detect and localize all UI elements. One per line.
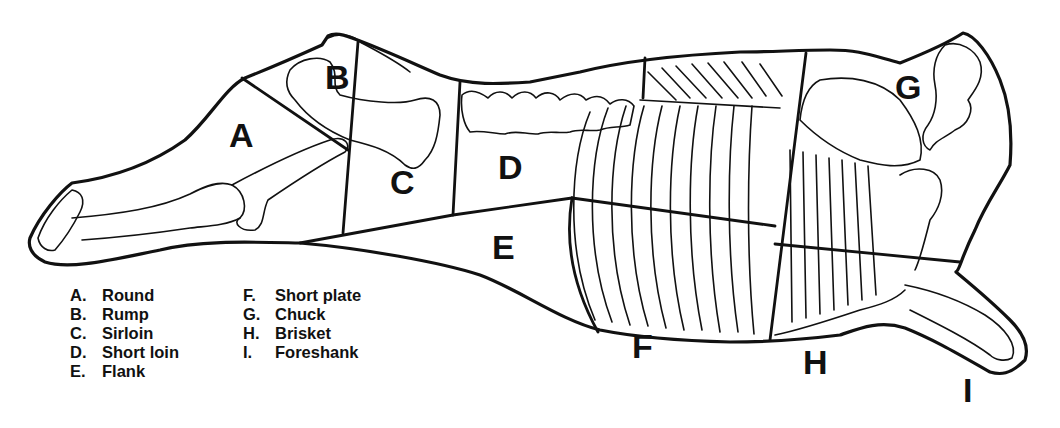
humerus [900, 169, 942, 270]
legend-item-sirloin: C.Sirloin [70, 324, 179, 343]
region-label-short-loin: D [498, 150, 523, 184]
region-label-foreshank: I [963, 373, 972, 407]
legend-item-rump: B.Rump [70, 305, 179, 324]
cut-sirloin-shortloin [453, 82, 460, 215]
hind-hoof [38, 190, 83, 251]
legend-left-column: A.Round B.Rump C.Sirloin D.Short loin E.… [70, 286, 179, 381]
cut-plate-top [572, 198, 775, 226]
legend-item-short-plate: F.Short plate [243, 286, 361, 305]
region-label-short-plate: F [632, 329, 653, 363]
cut-brisket-top [775, 244, 960, 262]
region-label-round: A [229, 118, 254, 152]
cut-rib-chuck [770, 53, 806, 340]
region-label-chuck: G [895, 70, 921, 104]
ribs-chuck-brisket [775, 150, 905, 335]
cut-shortloin-rib [643, 58, 645, 98]
legend-item-flank: E.Flank [70, 362, 179, 381]
cervical-vertebrae [923, 44, 981, 150]
region-label-rump: B [325, 60, 350, 94]
region-label-flank: E [492, 230, 515, 264]
region-label-sirloin: C [390, 165, 415, 199]
lumbar-vertebrae [461, 91, 634, 134]
thoracic-spines [640, 62, 782, 108]
region-label-brisket: H [803, 345, 828, 379]
pelvis [287, 58, 440, 168]
legend-item-chuck: G.Chuck [243, 305, 361, 324]
hind-cannon-bone [72, 183, 244, 240]
cut-flank-top [300, 198, 572, 243]
legend-item-short-loin: D.Short loin [70, 343, 179, 362]
legend-item-brisket: H.Brisket [243, 324, 361, 343]
legend-item-round: A.Round [70, 286, 179, 305]
legend-item-foreshank: I.Foreshank [243, 343, 361, 362]
legend-right-column: F.Short plate G.Chuck H.Brisket I.Foresh… [243, 286, 361, 362]
fore-shank-bone [905, 285, 1013, 360]
